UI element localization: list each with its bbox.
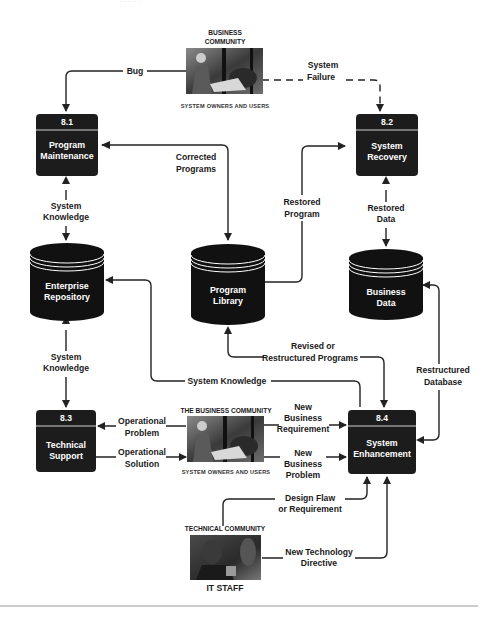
svg-text:Requirement: Requirement (277, 424, 330, 434)
flow-corrected-programs: Corrected Programs (101, 141, 228, 240)
svg-text:System Knowledge: System Knowledge (188, 376, 267, 386)
svg-text:TECHNICAL COMMUNITY: TECHNICAL COMMUNITY (185, 525, 266, 532)
svg-text:Database: Database (424, 377, 462, 387)
business-people-photo (186, 48, 263, 94)
svg-text:New: New (294, 402, 312, 412)
svg-text:SYSTEM OWNERS AND USERS: SYSTEM OWNERS AND USERS (181, 103, 270, 109)
svg-text:New Technology: New Technology (285, 547, 353, 557)
svg-text:COMMUNITY: COMMUNITY (205, 38, 246, 45)
flow-system-failure: System Failure (262, 58, 380, 111)
svg-text:System: System (51, 201, 82, 211)
svg-text:SYSTEM OWNERS AND USERS: SYSTEM OWNERS AND USERS (182, 469, 271, 475)
dfd-diagram: · · · · · · Bug System Failure Corrected… (0, 0, 487, 621)
svg-text:Support: Support (49, 451, 83, 461)
svg-text:Failure: Failure (307, 72, 335, 82)
process-8-4-system-enhancement[interactable]: 8.4 System Enhancement (348, 410, 416, 474)
flow-operational-solution: Operational Solution (96, 446, 186, 472)
header-fragment: · · · · · · (120, 0, 140, 4)
svg-text:System: System (308, 60, 339, 70)
svg-text:Knowledge: Knowledge (43, 212, 89, 222)
svg-text:Business: Business (366, 287, 405, 297)
svg-text:Revised or: Revised or (291, 341, 336, 351)
svg-text:Restructured Programs: Restructured Programs (262, 353, 358, 363)
entity-business-community-mid[interactable]: THE BUSINESS COMMUNITY SYSTEM OWNERS AND… (180, 407, 272, 475)
svg-text:Maintenance: Maintenance (40, 151, 93, 161)
svg-text:Bug: Bug (127, 66, 144, 76)
process-8-2-system-recovery[interactable]: 8.2 System Recovery (356, 114, 418, 176)
svg-text:Program: Program (210, 285, 246, 295)
svg-text:IT STAFF: IT STAFF (206, 583, 243, 593)
svg-text:BUSINESS: BUSINESS (208, 29, 242, 36)
process-8-3-technical-support[interactable]: 8.3 Technical Support (36, 410, 96, 472)
svg-text:8.4: 8.4 (376, 413, 388, 423)
svg-text:Problem: Problem (125, 428, 160, 438)
svg-text:System: System (366, 438, 397, 448)
flow-bug: Bug (66, 65, 186, 111)
svg-text:Solution: Solution (125, 459, 159, 469)
svg-text:Restored: Restored (367, 203, 404, 213)
datastore-business-data[interactable]: Business Data (349, 249, 423, 320)
svg-text:Corrected: Corrected (176, 152, 217, 162)
svg-text:or Requirement: or Requirement (278, 504, 342, 514)
svg-text:8.3: 8.3 (60, 413, 72, 423)
svg-text:Problem: Problem (286, 470, 321, 480)
svg-text:Recovery: Recovery (367, 152, 407, 162)
svg-text:Data: Data (376, 298, 395, 308)
flow-system-knowledge-top: System Knowledge (43, 176, 89, 240)
svg-text:Restored: Restored (283, 197, 320, 207)
svg-text:Programs: Programs (176, 164, 216, 174)
it-staff-photo (190, 535, 261, 580)
svg-text:Knowledge: Knowledge (43, 363, 89, 373)
svg-text:Data: Data (377, 214, 396, 224)
svg-text:Operational: Operational (118, 447, 166, 457)
svg-text:Technical: Technical (46, 440, 86, 450)
svg-text:Program: Program (284, 209, 320, 219)
svg-text:Enterprise: Enterprise (45, 281, 89, 291)
svg-text:Design Flaw: Design Flaw (285, 493, 335, 503)
flow-new-business-requirement: New Business Requirement (264, 401, 346, 437)
flow-design-flaw: Design Flaw or Requirement (223, 477, 367, 526)
svg-text:Program: Program (49, 140, 85, 150)
svg-text:New: New (294, 448, 312, 458)
flow-new-business-problem: New Business Problem (264, 447, 346, 483)
flow-operational-problem: Operational Problem (98, 415, 186, 441)
flow-restored-program: Restored Program (262, 146, 345, 282)
process-8-1-program-maintenance[interactable]: 8.1 Program Maintenance (36, 114, 98, 176)
svg-text:System: System (371, 141, 402, 151)
svg-text:THE BUSINESS COMMUNITY: THE BUSINESS COMMUNITY (180, 407, 272, 414)
svg-text:Directive: Directive (301, 558, 338, 568)
svg-text:Enhancement: Enhancement (353, 449, 411, 459)
svg-text:Operational: Operational (118, 416, 166, 426)
svg-text:Repository: Repository (44, 292, 90, 302)
business-people-photo (187, 416, 264, 462)
svg-text:Restructured: Restructured (416, 365, 469, 375)
entity-technical-community[interactable]: TECHNICAL COMMUNITY IT STAFF (185, 525, 266, 593)
svg-text:8.1: 8.1 (61, 117, 73, 127)
svg-text:Library: Library (213, 296, 243, 306)
svg-text:Business: Business (284, 413, 322, 423)
flow-system-knowledge-mid: System Knowledge (43, 316, 89, 407)
datastore-program-library[interactable]: Program Library (191, 244, 265, 325)
datastore-enterprise-repository[interactable]: Enterprise Repository (30, 243, 104, 321)
svg-text:Business: Business (284, 459, 322, 469)
flow-restructured-database: Restructured Database (416, 285, 470, 444)
flow-restored-data: Restored Data (366, 176, 406, 246)
svg-text:System: System (51, 352, 82, 362)
entity-business-community-top[interactable]: BUSINESS COMMUNITY SYSTEM OWNERS AND USE… (181, 29, 270, 109)
svg-text:8.2: 8.2 (381, 117, 393, 127)
